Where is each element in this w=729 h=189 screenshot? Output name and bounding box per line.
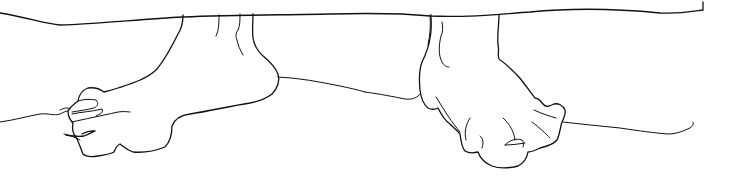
left-front-line: [0, 111, 68, 122]
left-ankle-crease: [236, 14, 243, 55]
middle-ground-line: [365, 92, 420, 99]
right-toe-5: [532, 122, 550, 138]
right-ankle-crease: [439, 22, 449, 67]
left-foot-outline: [68, 14, 279, 157]
left-back-line: [278, 77, 365, 92]
right-toe-6: [534, 110, 556, 118]
feet-sketch: [0, 0, 729, 189]
right-front-line: [563, 122, 693, 134]
right-toenail: [505, 143, 525, 145]
right-toe-2: [480, 136, 483, 148]
left-ankle-crease-short: [216, 15, 219, 36]
left-toe-2: [72, 109, 103, 116]
right-heel-crease: [436, 97, 460, 132]
top-edge-line: [0, 2, 703, 25]
right-toe-1: [465, 118, 470, 140]
right-toe-3: [503, 118, 515, 140]
left-toe-1: [72, 99, 98, 112]
right-foot-outline: [419, 15, 565, 168]
line-drawing: Contour line drawing of two bare feet ha…: [0, 0, 729, 189]
